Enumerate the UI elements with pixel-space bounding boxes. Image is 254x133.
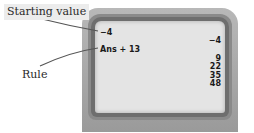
starting-value-leader — [42, 19, 98, 31]
starting-value-label: Starting value — [4, 4, 89, 20]
rule-label: Rule — [22, 68, 47, 82]
rule-leader — [40, 48, 98, 66]
